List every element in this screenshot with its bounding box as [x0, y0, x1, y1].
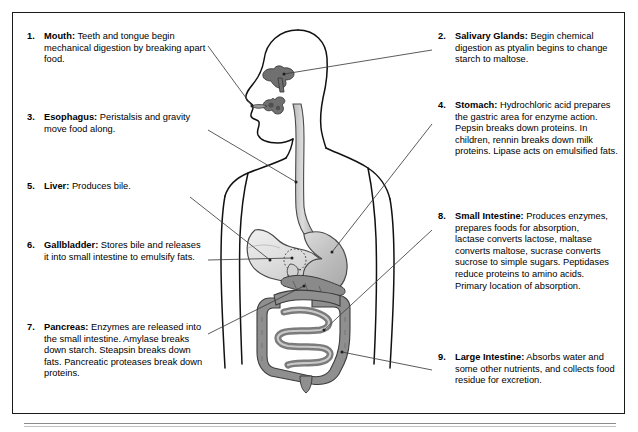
- digestive-system-figure: 1. Mouth: Teeth and tongue begin mechani…: [0, 0, 638, 432]
- callout-gallbladder: 6. Gallbladder: Stores bile and releases…: [27, 240, 207, 263]
- leader-line-1: [208, 46, 252, 106]
- callout-term: Salivary Glands:: [455, 31, 528, 41]
- callout-term: Liver:: [44, 181, 69, 191]
- callout-salivary-glands: 2. Salivary Glands: Begin chemical diges…: [438, 31, 624, 66]
- callout-body: Salivary Glands: Begin chemical digestio…: [455, 31, 624, 66]
- callout-esophagus: 3. Esophagus: Peristalsis and gravity mo…: [27, 112, 207, 135]
- callout-body: Esophagus: Peristalsis and gravity move …: [44, 112, 207, 135]
- callout-term: Pancreas:: [44, 322, 88, 332]
- callout-body: Mouth: Teeth and tongue begin mechanical…: [44, 31, 207, 66]
- esophagus-organ: [293, 104, 314, 234]
- leader-line-3: [208, 130, 296, 182]
- callout-small-intestine: 8. Small Intestine: Produces enzymes, pr…: [438, 211, 610, 292]
- callout-term: Gallbladder:: [44, 240, 98, 250]
- footer-rule-lower: [24, 426, 616, 427]
- callout-body: Stomach: Hydrochloric acid prepares the …: [455, 100, 618, 158]
- callout-number: 8.: [438, 211, 452, 223]
- callout-pancreas: 7. Pancreas: Enzymes are released into t…: [27, 322, 207, 380]
- callout-number: 3.: [27, 112, 41, 124]
- callout-number: 2.: [438, 31, 452, 43]
- callout-stomach: 4. Stomach: Hydrochloric acid prepares t…: [438, 100, 618, 158]
- callout-term: Esophagus:: [44, 112, 97, 122]
- callout-term: Mouth:: [44, 31, 75, 41]
- callout-number: 7.: [27, 322, 41, 334]
- callout-mouth: 1. Mouth: Teeth and tongue begin mechani…: [27, 31, 207, 66]
- footer-rule-upper: [24, 423, 616, 424]
- callout-body: Gallbladder: Stores bile and releases it…: [44, 240, 207, 263]
- callout-liver: 5. Liver: Produces bile.: [27, 181, 207, 193]
- callout-body: Large Intestine: Absorbs water and some …: [455, 352, 616, 387]
- callout-number: 6.: [27, 240, 41, 252]
- callout-number: 9.: [438, 352, 452, 364]
- callout-text: Produces bile.: [69, 181, 131, 191]
- leader-line-2: [284, 50, 432, 74]
- callout-body: Small Intestine: Produces enzymes, prepa…: [455, 211, 610, 292]
- body-outline: [221, 30, 394, 368]
- callout-number: 1.: [27, 31, 41, 43]
- leader-lines: [190, 46, 432, 370]
- callout-body: Liver: Produces bile.: [44, 181, 207, 193]
- leader-line-9: [342, 352, 432, 370]
- callout-term: Small Intestine:: [455, 211, 524, 221]
- callout-text: Produces enzymes, prepares foods for abs…: [455, 211, 609, 291]
- callout-large-intestine: 9. Large Intestine: Absorbs water and so…: [438, 352, 616, 387]
- large-intestine-organ: [257, 290, 350, 393]
- callout-body: Pancreas: Enzymes are released into the …: [44, 322, 207, 380]
- small-intestine-organ: [278, 310, 331, 365]
- callout-number: 4.: [438, 100, 452, 112]
- callout-term: Large Intestine:: [455, 352, 524, 362]
- leader-line-4: [332, 124, 432, 252]
- callout-term: Stomach:: [455, 100, 497, 110]
- callout-number: 5.: [27, 181, 41, 193]
